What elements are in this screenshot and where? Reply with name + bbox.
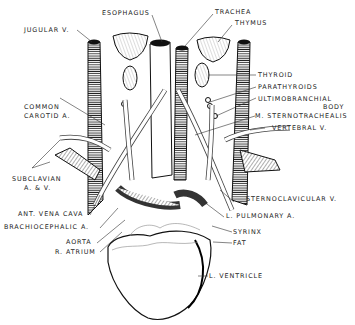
label-subclavian: SUBCLAVIAN (12, 176, 62, 183)
label-carotid-a: CAROTID A. (24, 113, 70, 120)
label-ultimobranchial-body: BODY (323, 104, 344, 111)
label-r-atrium: R. ATRIUM (55, 249, 96, 256)
anatomy-illustration (0, 0, 355, 325)
label-sternoclavicular-v: STERNOCLAVICULAR V. (246, 196, 337, 203)
label-aorta: AORTA (66, 239, 92, 246)
label-common: COMMON (24, 104, 60, 111)
label-parathyroids: PARATHYROIDS (258, 84, 318, 91)
label-fat: FAT (233, 240, 247, 247)
anatomy-figure: ESOPHAGUS TRACHEA THYMUS JUGULAR V. THYR… (0, 0, 355, 325)
label-jugular-v: JUGULAR V. (24, 27, 69, 34)
heart (108, 224, 211, 320)
label-l-pulmonary-a: L. PULMONARY A. (226, 213, 295, 220)
esophagus-trachea (150, 40, 188, 181)
label-l-ventricle: L. VENTRICLE (209, 273, 263, 280)
label-vertebral-v: VERTEBRAL V. (272, 125, 327, 132)
label-brachiocephalic-a: BRACHIOCEPHALIC A. (4, 224, 89, 231)
label-thymus: THYMUS (235, 20, 267, 27)
label-esophagus: ESOPHAGUS (102, 10, 150, 17)
label-m-sternotrachealis: M. STERNOTRACHEALIS (255, 113, 347, 120)
thymus (113, 33, 230, 62)
label-syrinx: SYRINX (233, 229, 262, 236)
label-subclavian-av: A. & V. (24, 185, 51, 192)
label-trachea: TRACHEA (215, 9, 251, 16)
label-ant-vena-cava: ANT. VENA CAVA (18, 211, 83, 218)
label-ultimobranchial: ULTIMOBRANCHIAL (258, 96, 332, 103)
label-thyroid: THYROID (258, 72, 293, 79)
